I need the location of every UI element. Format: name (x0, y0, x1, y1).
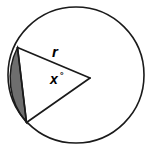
degree-symbol-label: ° (60, 70, 64, 80)
geometry-figure: r x ° (0, 0, 151, 152)
circle-segment-diagram: r x ° (0, 0, 151, 152)
angle-label: x (49, 71, 59, 87)
figure-background (0, 0, 151, 152)
